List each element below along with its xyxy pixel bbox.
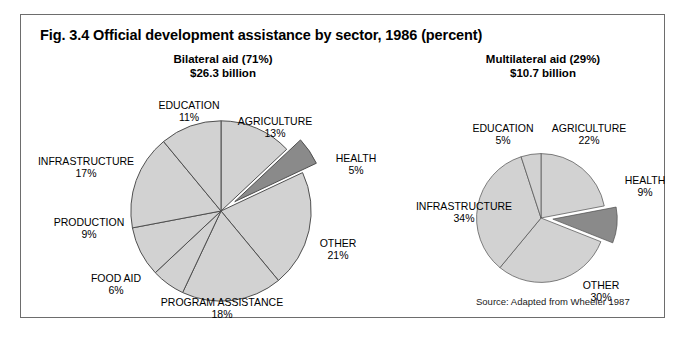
pie-label-program-assistance-bilateral: PROGRAM ASSISTANCE 18%	[149, 296, 295, 320]
pie-label-infrastructure-multilateral: INFRASTRUCTURE 34%	[412, 200, 516, 224]
sector-name: OTHER	[313, 237, 363, 249]
sector-value: 11%	[143, 111, 235, 123]
multilateral-aid-panel: Multilateral aid (29%) $10.7 billion EDU…	[411, 15, 666, 317]
figure-frame: Fig. 3.4 Official development assistance…	[20, 14, 665, 318]
sector-name: PROGRAM ASSISTANCE	[149, 296, 295, 308]
pie-label-agriculture-multilateral: AGRICULTURE 22%	[546, 122, 632, 146]
pie-label-education-multilateral: EDUCATION 5%	[465, 122, 541, 146]
pie-label-other-bilateral: OTHER 21%	[313, 237, 363, 261]
pie-slice-agriculture	[541, 154, 604, 218]
bilateral-heading: Bilateral aid (71%) $26.3 billion	[113, 53, 333, 80]
pie-label-production-bilateral: PRODUCTION 9%	[50, 216, 128, 240]
pie-label-education-bilateral: EDUCATION 11%	[143, 99, 235, 123]
sector-value: 6%	[87, 284, 145, 296]
pie-label-infrastructure-bilateral: INFRASTRUCTURE 17%	[34, 155, 138, 179]
bilateral-heading-amount: $26.3 billion	[113, 67, 333, 81]
sector-name: FOOD AID	[87, 272, 145, 284]
bilateral-pie-chart	[123, 113, 319, 309]
multilateral-heading: Multilateral aid (29%) $10.7 billion	[433, 53, 653, 80]
sector-value: 13%	[227, 127, 323, 139]
sector-value: 22%	[546, 134, 632, 146]
pie-label-agriculture-bilateral: AGRICULTURE 13%	[227, 115, 323, 139]
pie-label-food-aid-bilateral: FOOD AID 6%	[87, 272, 145, 296]
sector-value: 17%	[34, 167, 138, 179]
pie-label-health-multilateral: HEALTH 9%	[616, 174, 674, 198]
sector-name: HEALTH	[616, 174, 674, 186]
sector-name: EDUCATION	[143, 99, 235, 111]
sector-name: EDUCATION	[465, 122, 541, 134]
source-note: Source: Adapted from Wheeler 1987	[476, 296, 630, 307]
sector-name: AGRICULTURE	[227, 115, 323, 127]
sector-value: 34%	[412, 212, 516, 224]
sector-value: 9%	[616, 186, 674, 198]
sector-name: PRODUCTION	[50, 216, 128, 228]
sector-name: INFRASTRUCTURE	[412, 200, 516, 212]
sector-value: 5%	[325, 164, 387, 176]
sector-value: 21%	[313, 249, 363, 261]
sector-name: INFRASTRUCTURE	[34, 155, 138, 167]
sector-value: 9%	[50, 228, 128, 240]
bilateral-heading-title: Bilateral aid (71%)	[173, 53, 272, 65]
multilateral-heading-amount: $10.7 billion	[433, 67, 653, 81]
sector-value: 5%	[465, 134, 541, 146]
bilateral-aid-panel: Bilateral aid (71%) $26.3 billion EDUCAT…	[21, 15, 421, 317]
sector-name: AGRICULTURE	[546, 122, 632, 134]
sector-value: 18%	[149, 308, 295, 320]
sector-name: OTHER	[574, 279, 628, 291]
multilateral-heading-title: Multilateral aid (29%)	[486, 53, 600, 65]
pie-label-health-bilateral: HEALTH 5%	[325, 152, 387, 176]
sector-name: HEALTH	[325, 152, 387, 164]
